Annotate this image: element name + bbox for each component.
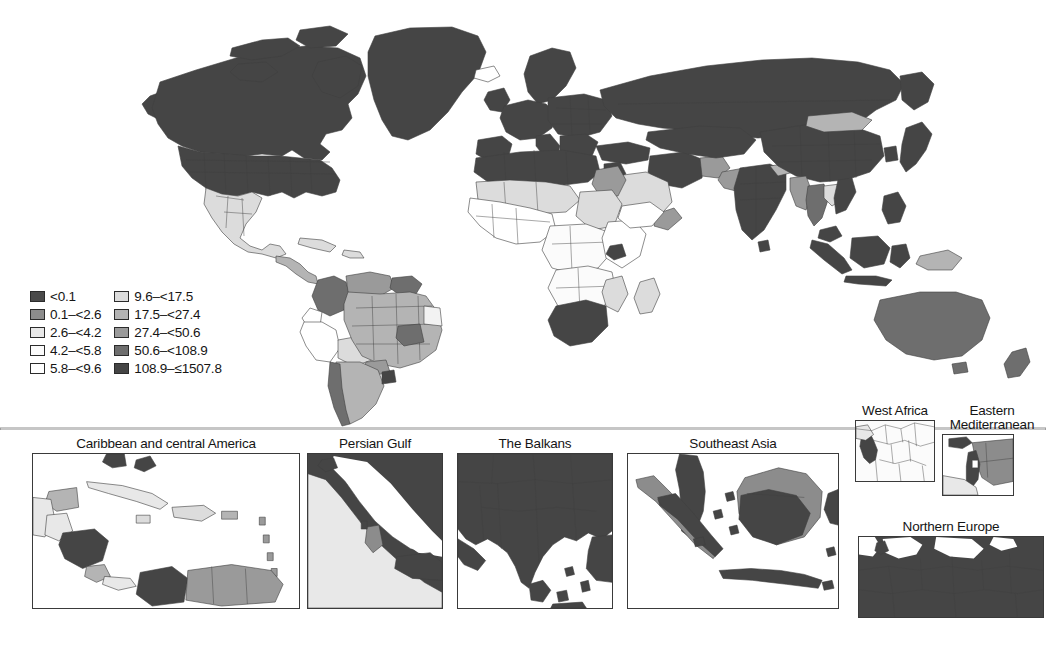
inset-frame — [307, 453, 443, 609]
legend-item: 9.6–<17.5 — [114, 288, 221, 305]
region-venezuela — [186, 565, 283, 606]
legend-swatch — [30, 291, 45, 302]
region-jamaica — [136, 515, 150, 523]
legend-item: 50.6–<108.9 — [114, 342, 221, 359]
legend-swatch — [30, 327, 45, 338]
legend-swatch — [114, 345, 129, 356]
inset-map-persian-gulf — [308, 454, 442, 608]
region-bahrain — [361, 521, 367, 529]
legend-label: 27.4–<50.6 — [134, 326, 200, 340]
legend-label: 5.8–<9.6 — [50, 362, 101, 376]
legend-swatch — [30, 309, 45, 320]
legend-label: <0.1 — [50, 290, 76, 304]
inset-title: Caribbean and central America — [32, 436, 300, 451]
inset-persian-gulf: Persian Gulf — [307, 436, 443, 609]
legend-label: 4.2–<5.8 — [50, 344, 101, 358]
region-north-africa — [474, 150, 600, 186]
inset-the-balkans: The Balkans — [457, 436, 613, 609]
legend-label: 108.9–≤1507.8 — [134, 362, 221, 376]
inset-frame — [942, 434, 1014, 496]
legend-item: 0.1–<2.6 — [30, 306, 101, 323]
inset-map-southeast-asia — [628, 454, 838, 608]
legend: <0.1 0.1–<2.6 2.6–<4.2 4.2–<5.8 5.8–<9.6 — [30, 288, 222, 377]
legend-swatch — [114, 327, 129, 338]
region-bali-lesser-sunda — [822, 580, 834, 590]
legend-label: 0.1–<2.6 — [50, 308, 101, 322]
choropleth-figure: <0.1 0.1–<2.6 2.6–<4.2 4.2–<5.8 5.8–<9.6 — [0, 0, 1046, 645]
inset-map-west-africa — [856, 421, 934, 481]
region-korea — [884, 146, 898, 162]
legend-item: <0.1 — [30, 288, 101, 305]
inset-title: Southeast Asia — [627, 436, 839, 451]
inset-frame — [627, 453, 839, 609]
legend-swatch — [114, 291, 129, 302]
inset-title: Eastern Mediterranean — [942, 404, 1042, 432]
inset-frame — [855, 420, 935, 482]
legend-item: 17.5–<27.4 — [114, 306, 221, 323]
legend-label: 9.6–<17.5 — [134, 290, 193, 304]
inset-map-balkans — [458, 454, 612, 608]
legend-swatch — [30, 345, 45, 356]
legend-swatch — [114, 363, 129, 374]
inset-southeast-asia: Southeast Asia — [627, 436, 839, 609]
legend-column-right: 9.6–<17.5 17.5–<27.4 27.4–<50.6 50.6–<10… — [114, 288, 221, 377]
inset-map-eastern-mediterranean — [943, 435, 1013, 495]
region-brazil-light-state — [424, 306, 442, 326]
region-sea-of-galilee — [972, 460, 978, 468]
legend-item: 4.2–<5.8 — [30, 342, 101, 359]
region-sri-lanka — [758, 240, 770, 252]
region-tasmania — [952, 362, 968, 374]
legend-swatch — [30, 363, 45, 374]
inset-map-northern-europe — [859, 537, 1043, 617]
inset-title: Persian Gulf — [307, 436, 443, 451]
inset-map-caribbean — [33, 454, 299, 608]
legend-label: 17.5–<27.4 — [134, 308, 200, 322]
inset-frame — [32, 453, 300, 609]
legend-label: 50.6–<108.9 — [134, 344, 207, 358]
region-colombia — [136, 567, 188, 606]
legend-item: 2.6–<4.2 — [30, 324, 101, 341]
legend-item: 5.8–<9.6 — [30, 360, 101, 377]
inset-title: Northern Europe — [858, 519, 1044, 534]
legend-item: 27.4–<50.6 — [114, 324, 221, 341]
region-singapore — [693, 537, 705, 547]
inset-title: West Africa — [855, 404, 935, 418]
region-puerto-rico — [222, 511, 238, 519]
legend-swatch — [114, 309, 129, 320]
inset-frame — [457, 453, 613, 609]
inset-frame — [858, 536, 1044, 618]
legend-column-left: <0.1 0.1–<2.6 2.6–<4.2 4.2–<5.8 5.8–<9.6 — [30, 288, 101, 377]
inset-caribbean-central-america: Caribbean and central America — [32, 436, 300, 609]
legend-item: 108.9–≤1507.8 — [114, 360, 221, 377]
region-uruguay — [382, 370, 396, 384]
inset-northern-europe: Northern Europe — [858, 519, 1044, 618]
legend-label: 2.6–<4.2 — [50, 326, 101, 340]
inset-eastern-mediterranean: Eastern Mediterranean — [942, 404, 1042, 496]
inset-title: The Balkans — [457, 436, 613, 451]
inset-west-africa: West Africa — [855, 404, 935, 482]
